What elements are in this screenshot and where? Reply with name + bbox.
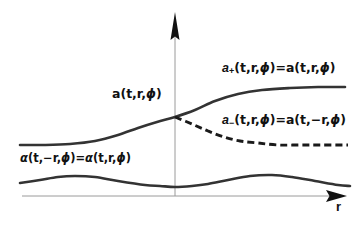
y-axis-arrowhead-icon [171,12,180,40]
label-a-minus: a−(t,r,ϕ)=a(t,−r,ϕ) [222,114,346,128]
label-alpha: α(t,−r,ϕ)=α(t,r,ϕ) [20,153,131,165]
label-a-plus: a+(t,r,ϕ)=a(t,r,ϕ) [222,62,336,76]
label-a-center: a(t,r,ϕ) [112,88,162,101]
curve-alpha [20,175,350,187]
label-r-axis: r [336,200,341,213]
physics-diagram: a+(t,r,ϕ)=a(t,r,ϕ) a−(t,r,ϕ)=a(t,−r,ϕ) a… [0,0,359,230]
